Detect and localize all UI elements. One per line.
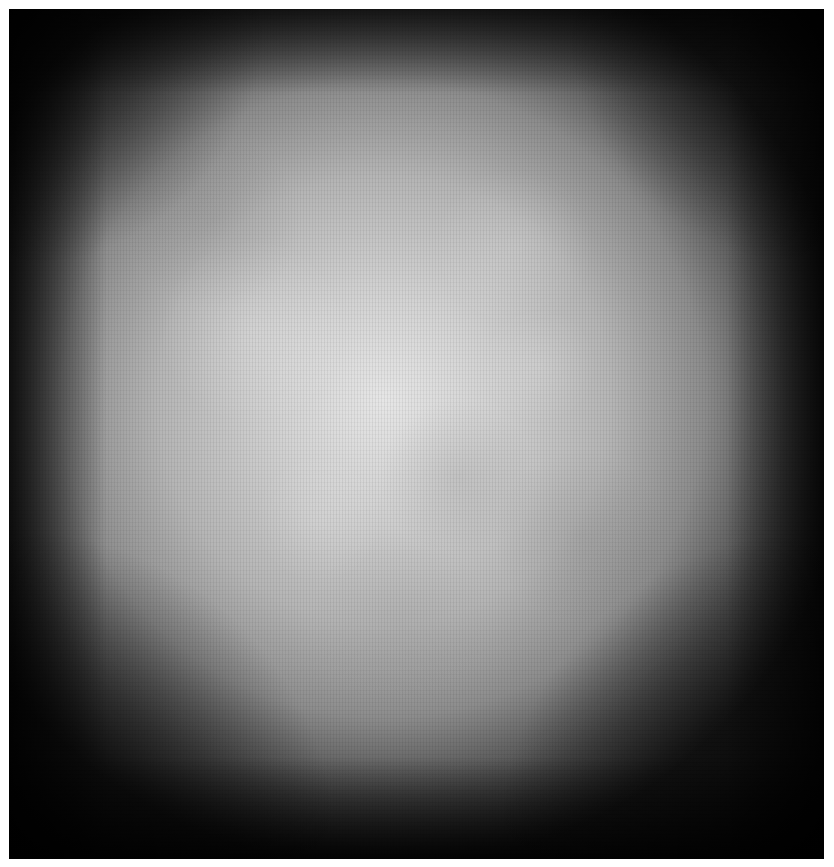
corner-shading	[9, 9, 824, 859]
grunge-texture-image	[9, 9, 824, 859]
page-canvas	[0, 0, 834, 867]
